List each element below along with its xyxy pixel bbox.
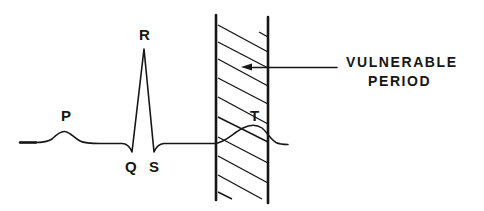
label-r: R (139, 26, 150, 43)
label-s: S (149, 158, 159, 175)
callout-line-1: VULNERABLE (346, 54, 458, 70)
label-p: P (61, 107, 71, 124)
hatch-lines (218, 25, 268, 199)
ecg-waveform (20, 49, 288, 152)
callout-line-2: PERIOD (368, 73, 431, 89)
ecg-diagram: P R Q S T VULNERABLE PERIOD (0, 0, 484, 211)
arrowhead-icon (241, 64, 252, 71)
label-q: Q (125, 158, 137, 175)
label-t: T (250, 107, 259, 124)
vulnerable-period-band (216, 15, 268, 203)
callout-arrow (241, 64, 337, 71)
